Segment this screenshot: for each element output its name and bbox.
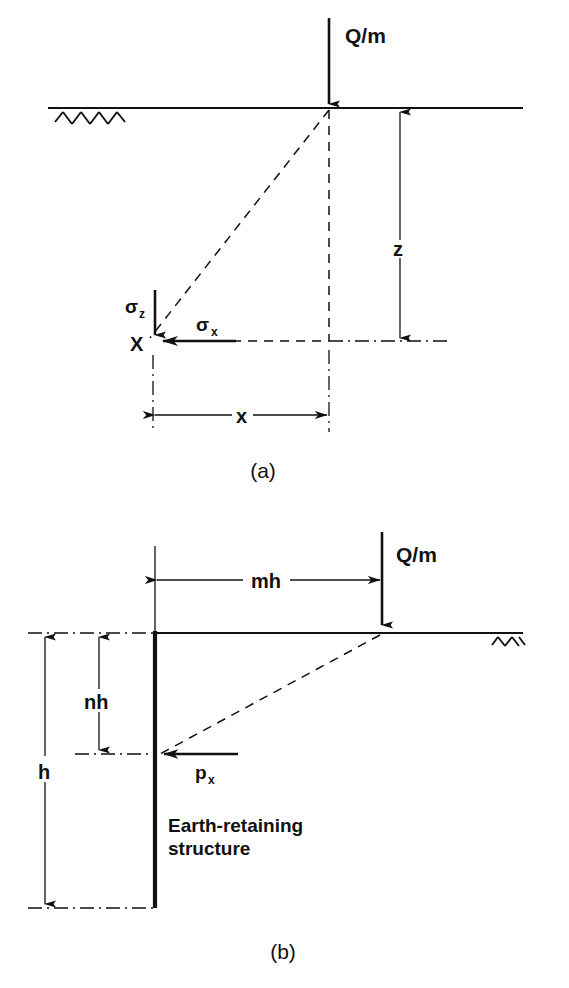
ray-load-to-wall-b: [160, 635, 380, 754]
structure-label-line2-b: structure: [168, 838, 250, 859]
figure-page: Q/m σ z σ x X z: [0, 0, 569, 988]
ground-hatch-icon-b: [492, 637, 525, 646]
load-label-a: Q/m: [345, 24, 386, 47]
figure-panel-b: mh Q/m p x: [0, 494, 569, 988]
figure-panel-a: Q/m σ z σ x X z: [0, 0, 569, 494]
depth-label-a: z: [393, 238, 403, 260]
sigma-x-label-a: σ: [196, 314, 209, 335]
point-x-label-a: X: [130, 333, 144, 355]
ray-load-to-point-a: [150, 110, 329, 338]
ground-hatch-icon-a: [55, 112, 125, 124]
sigma-z-label-a: σ: [125, 296, 138, 317]
diagram-a-svg: Q/m σ z σ x X z: [0, 0, 569, 494]
h-label-b: h: [38, 761, 50, 783]
sigma-z-subscript-a: z: [139, 307, 145, 321]
caption-a: (a): [250, 459, 276, 482]
sigma-x-subscript-a: x: [211, 325, 218, 339]
mh-label-b: mh: [251, 570, 281, 592]
load-label-b: Q/m: [396, 543, 437, 566]
pressure-label-b: p: [195, 762, 207, 783]
pressure-subscript-b: x: [208, 773, 215, 787]
offset-label-a: x: [236, 405, 247, 427]
caption-b: (b): [270, 940, 296, 963]
structure-label-line1-b: Earth-retaining: [168, 815, 303, 836]
nh-label-b: nh: [84, 691, 108, 713]
diagram-b-svg: mh Q/m p x: [0, 494, 569, 988]
